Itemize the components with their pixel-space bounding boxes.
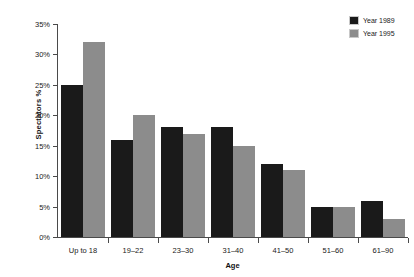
legend-swatch-icon bbox=[349, 16, 359, 25]
bar-1 bbox=[283, 170, 305, 237]
bar-group bbox=[61, 24, 105, 237]
y-axis-tick-label: 20% bbox=[22, 111, 50, 120]
bar-group bbox=[161, 24, 205, 237]
x-axis-tick-mark bbox=[258, 238, 259, 243]
bar-0 bbox=[361, 201, 383, 238]
bar-1 bbox=[233, 146, 255, 237]
legend-item: Year 1995 bbox=[349, 28, 395, 39]
bar-chart: Spectators % 0%5%10%15%20%25%30%35% Up t… bbox=[0, 0, 414, 277]
bar-1 bbox=[383, 219, 405, 237]
y-axis-tick-labels: 0%5%10%15%20%25%30%35% bbox=[22, 0, 50, 277]
legend-swatch-icon bbox=[349, 29, 359, 38]
bar-0 bbox=[111, 140, 133, 237]
x-axis-tick-label: 61–90 bbox=[353, 246, 413, 255]
x-axis-line bbox=[57, 237, 408, 238]
bar-group bbox=[261, 24, 305, 237]
bar-group bbox=[361, 24, 405, 237]
y-axis-tick-label: 5% bbox=[22, 202, 50, 211]
x-axis-tick-mark bbox=[308, 238, 309, 243]
legend-item: Year 1989 bbox=[349, 15, 395, 26]
y-axis-tick-label: 25% bbox=[22, 80, 50, 89]
x-axis-tick-mark bbox=[208, 238, 209, 243]
x-axis-tick-mark bbox=[108, 238, 109, 243]
bar-0 bbox=[211, 127, 233, 237]
bar-group bbox=[211, 24, 255, 237]
y-axis-tick-label: 15% bbox=[22, 141, 50, 150]
y-axis-tick-label: 0% bbox=[22, 233, 50, 242]
x-axis-tick-mark bbox=[158, 238, 159, 243]
bar-1 bbox=[183, 134, 205, 237]
bar-0 bbox=[61, 85, 83, 237]
y-axis-tick-label: 35% bbox=[22, 20, 50, 29]
bar-1 bbox=[83, 42, 105, 237]
x-axis-title: Age bbox=[57, 261, 408, 270]
y-axis-tick-label: 30% bbox=[22, 50, 50, 59]
bar-0 bbox=[311, 207, 333, 237]
x-axis-tick-mark bbox=[358, 238, 359, 243]
bar-1 bbox=[133, 115, 155, 237]
chart-legend: Year 1989Year 1995 bbox=[349, 15, 395, 41]
plot-area bbox=[58, 24, 408, 237]
x-axis-tick-mark bbox=[408, 238, 409, 243]
bar-0 bbox=[161, 127, 183, 237]
bar-0 bbox=[261, 164, 283, 237]
bar-1 bbox=[333, 207, 355, 237]
legend-label: Year 1989 bbox=[363, 17, 395, 24]
legend-label: Year 1995 bbox=[363, 30, 395, 37]
y-axis-tick-label: 10% bbox=[22, 172, 50, 181]
bar-group bbox=[111, 24, 155, 237]
bar-group bbox=[311, 24, 355, 237]
